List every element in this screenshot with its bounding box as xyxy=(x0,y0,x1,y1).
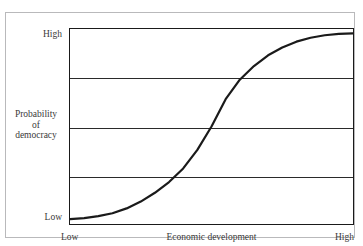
y-axis-high-label: High xyxy=(14,29,62,40)
figure-frame: High Probability of democracy Low Low Ec… xyxy=(5,12,355,238)
sigmoid-curve xyxy=(70,29,353,224)
plot-area xyxy=(69,28,354,225)
cropped-title-remnant xyxy=(0,0,363,7)
y-axis-title-line-3: democracy xyxy=(8,130,64,141)
y-axis-title-line-2: of xyxy=(8,120,64,131)
y-axis-title-line-1: Probability xyxy=(8,109,64,120)
x-axis-high-label: High xyxy=(304,232,354,243)
y-axis-low-label: Low xyxy=(14,212,62,223)
y-axis-title: Probability of democracy xyxy=(8,109,64,141)
